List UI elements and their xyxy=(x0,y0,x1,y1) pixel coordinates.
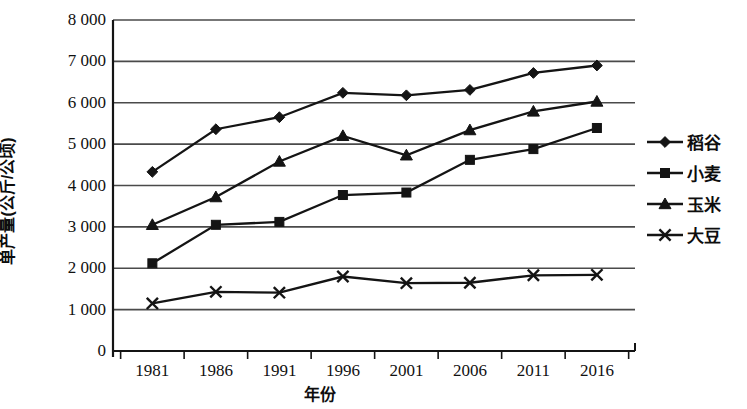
x-tick-label: 1986 xyxy=(181,362,251,379)
series-3 xyxy=(146,96,603,230)
y-tick-label: 6 000 xyxy=(30,94,106,111)
legend-item-1[interactable]: 稻谷 xyxy=(645,126,745,157)
data-point-marker xyxy=(148,259,157,268)
data-point-marker xyxy=(401,90,412,101)
data-point-marker xyxy=(210,191,222,202)
x-tick-label: 1996 xyxy=(308,362,378,379)
data-point-marker xyxy=(465,155,474,164)
y-tick-label: 5 000 xyxy=(30,135,106,152)
y-tick-label: 8 000 xyxy=(30,11,106,28)
data-series-layer xyxy=(146,60,603,309)
data-point-marker xyxy=(591,96,603,107)
y-tick-label: 7 000 xyxy=(30,52,106,69)
legend-marker-cross-icon xyxy=(645,226,685,244)
x-tick-label: 1981 xyxy=(117,362,187,379)
data-point-marker xyxy=(529,145,538,154)
legend-item-4[interactable]: 大豆 xyxy=(645,219,745,250)
data-point-marker xyxy=(528,68,539,79)
x-tick-label: 2011 xyxy=(498,362,568,379)
series-1 xyxy=(147,60,602,177)
legend-marker-triangle-icon xyxy=(645,195,685,213)
y-tick-label: 3 000 xyxy=(30,218,106,235)
y-tick-label: 4 000 xyxy=(30,177,106,194)
y-tick-label: 2 000 xyxy=(30,259,106,276)
crop-yield-line-chart: 01 0002 0003 0004 0005 0006 0007 0008 00… xyxy=(0,0,747,409)
x-axis-tick-marks xyxy=(121,351,629,359)
x-tick-label: 2006 xyxy=(435,362,505,379)
chart-legend: 稻谷小麦玉米大豆 xyxy=(645,126,745,250)
data-point-marker xyxy=(661,168,670,177)
legend-label: 玉米 xyxy=(685,191,721,216)
gridlines xyxy=(113,20,635,310)
y-axis-title: 单产量(公斤/公顷) xyxy=(0,96,18,306)
x-tick-label: 2016 xyxy=(562,362,632,379)
data-point-marker xyxy=(337,130,349,141)
x-tick-label: 2001 xyxy=(371,362,441,379)
legend-item-3[interactable]: 玉米 xyxy=(645,188,745,219)
legend-label: 稻谷 xyxy=(685,129,721,154)
legend-label: 大豆 xyxy=(685,222,721,247)
series-line xyxy=(152,102,597,225)
x-axis-title: 年份 xyxy=(240,381,400,405)
data-point-marker xyxy=(274,112,285,123)
legend-label: 小麦 xyxy=(685,160,721,185)
chart-canvas xyxy=(0,0,747,409)
legend-item-2[interactable]: 小麦 xyxy=(645,157,745,188)
data-point-marker xyxy=(464,85,475,96)
data-point-marker xyxy=(402,188,411,197)
data-point-marker xyxy=(211,220,220,229)
legend-marker-square-icon xyxy=(645,164,685,182)
legend-marker-diamond-icon xyxy=(645,133,685,151)
data-point-marker xyxy=(275,217,284,226)
data-point-marker xyxy=(660,136,671,147)
data-point-marker xyxy=(592,123,601,132)
y-tick-label: 0 xyxy=(30,342,106,359)
y-tick-label: 1 000 xyxy=(30,301,106,318)
data-point-marker xyxy=(337,87,348,98)
data-point-marker xyxy=(338,191,347,200)
series-line xyxy=(152,66,597,172)
series-4 xyxy=(147,269,603,309)
x-tick-label: 1991 xyxy=(244,362,314,379)
